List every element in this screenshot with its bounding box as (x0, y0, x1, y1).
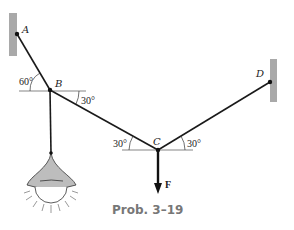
cable-BC (50, 90, 158, 150)
angle-label-30-C-right: 30° (187, 138, 201, 149)
cable-diagram: A B C D 60° 30° 30° 30° F Prob. 3–19 (0, 0, 294, 230)
label-A: A (21, 24, 29, 35)
figure-caption: Prob. 3–19 (112, 203, 183, 217)
joint-A (15, 32, 19, 36)
angle-arc-30-B (76, 91, 79, 104)
label-D: D (255, 68, 264, 79)
lamp-icon (24, 151, 78, 213)
angle-label-30-B: 30° (81, 95, 95, 106)
label-C: C (153, 136, 161, 147)
joint-D (268, 80, 272, 84)
angle-label-30-C-left: 30° (113, 138, 127, 149)
angle-label-60: 60° (19, 76, 33, 87)
angle-arc-30-C-left (129, 136, 133, 150)
force-label: F (165, 179, 171, 190)
joint-B (48, 88, 52, 92)
cable-CD (158, 82, 270, 150)
angle-arc-30-C-right (181, 136, 185, 150)
label-B: B (54, 78, 62, 89)
cable-B-lamp (50, 90, 51, 153)
force-arrowhead-icon (154, 183, 162, 194)
